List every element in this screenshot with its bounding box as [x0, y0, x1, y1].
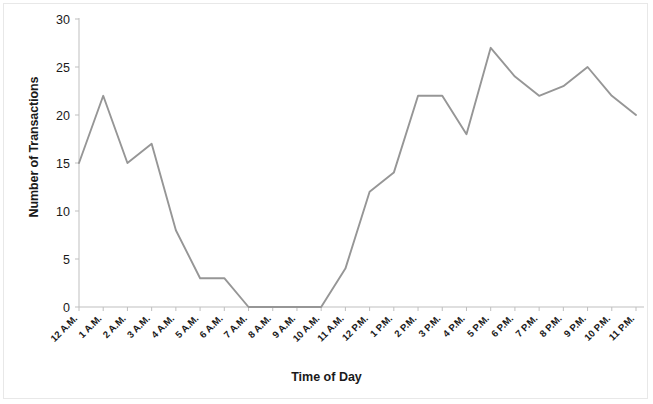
x-axis-tick-group	[79, 307, 636, 311]
chart-container: Number of Transactions 051015202530 12 A…	[0, 0, 653, 404]
x-axis-tick-label: 10 A.M.	[290, 313, 321, 344]
x-axis-tick-label: 8 P.M.	[537, 313, 564, 340]
y-axis-tick-label: 25	[56, 61, 70, 75]
y-axis-tick-label: 30	[56, 13, 70, 27]
x-axis-tick-label: 2 A.M.	[100, 313, 128, 341]
x-axis-tick-label: 6 P.M.	[489, 313, 516, 340]
x-axis-tick-label: 11 P.M.	[607, 313, 637, 343]
x-axis-tick-label: 3 P.M.	[416, 313, 443, 340]
x-axis-tick-label: 5 A.M.	[173, 313, 201, 341]
x-axis-tick-label: 7 P.M.	[513, 313, 540, 340]
y-axis-tick-label: 5	[63, 253, 70, 267]
y-axis-tick-label: 0	[63, 301, 70, 315]
y-axis-tick-group: 051015202530	[56, 13, 79, 315]
x-axis-tick-label: 1 A.M.	[76, 313, 104, 341]
x-axis-tick-label: 4 P.M.	[440, 313, 467, 340]
x-axis-tick-label: 5 P.M.	[465, 313, 492, 340]
x-axis-tick-label: 4 A.M.	[149, 313, 177, 341]
x-axis-tick-label: 11 A.M.	[315, 313, 346, 344]
x-axis-tick-label: 10 P.M.	[582, 313, 612, 343]
y-axis-tick-label: 10	[56, 205, 70, 219]
x-axis-tick-label: 12 P.M.	[340, 313, 370, 343]
x-axis-title: Time of Day	[0, 370, 653, 384]
x-axis-tick-label: 8 A.M.	[246, 313, 274, 341]
x-axis-tick-label: 1 P.M.	[368, 313, 395, 340]
y-axis-tick-label: 15	[56, 157, 70, 171]
data-series-line	[79, 48, 636, 307]
x-axis-tick-label: 2 P.M.	[392, 313, 419, 340]
x-axis-tick-label: 12 A.M.	[48, 313, 79, 344]
y-axis-tick-label: 20	[56, 109, 70, 123]
line-chart-plot: 051015202530 12 A.M.1 A.M.2 A.M.3 A.M.4 …	[0, 0, 653, 404]
x-axis-tick-label: 3 A.M.	[125, 313, 153, 341]
x-axis-tick-label: 6 A.M.	[197, 313, 225, 341]
x-axis-tick-label: 7 A.M.	[221, 313, 249, 341]
x-axis-label-group: 12 A.M.1 A.M.2 A.M.3 A.M.4 A.M.5 A.M.6 A…	[48, 313, 636, 344]
